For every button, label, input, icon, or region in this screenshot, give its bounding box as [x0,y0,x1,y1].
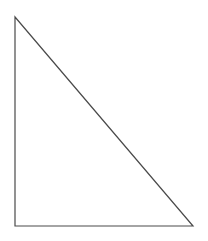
figure-svg [0,0,208,241]
drawing-canvas [0,0,208,241]
